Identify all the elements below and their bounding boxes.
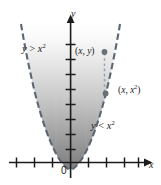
label-region-below: y < x2	[91, 121, 115, 132]
label-region-below-exp: 2	[112, 119, 115, 126]
label-region-above: y > x2	[22, 44, 46, 55]
label-region-below-var: y	[91, 120, 96, 131]
label-region-above-exp: 2	[43, 42, 46, 49]
x-axis-label: x	[149, 160, 153, 170]
label-point-xy: (x, y)	[75, 47, 95, 57]
point-marker-xx2	[103, 91, 109, 97]
label-point-xy-close: )	[91, 46, 94, 56]
label-point-xx2: (x, x2)	[118, 86, 140, 96]
label-region-above-var: y	[22, 43, 27, 54]
point-marker-xy	[102, 49, 108, 55]
parabola-inequality-figure: y > x2 y < x2 (x, y) (x, x2) x y 0	[0, 0, 161, 185]
y-axis-label: y	[71, 9, 75, 19]
label-point-xx2-close: )	[137, 85, 140, 95]
origin-label: 0	[61, 166, 67, 176]
